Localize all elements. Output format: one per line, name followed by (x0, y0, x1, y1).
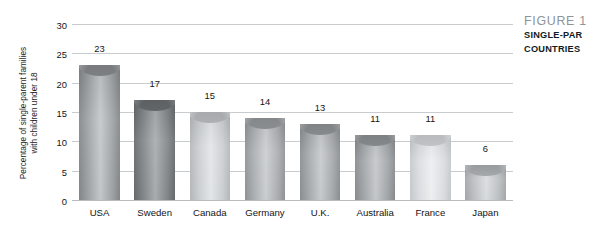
bar-slot: 23USA (79, 24, 120, 200)
bar-value-label: 17 (134, 78, 175, 89)
bar-slot: 11France (410, 24, 451, 200)
bar-body (79, 65, 120, 200)
bar-slot: 13U.K. (300, 24, 341, 200)
bar-usa[interactable] (79, 65, 120, 200)
bar-body (245, 118, 286, 200)
bar-slot: 14Germany (245, 24, 286, 200)
bar-u-k-[interactable] (300, 124, 341, 200)
bar-slot: 17Sweden (134, 24, 175, 200)
bar-slot: 11Australia (355, 24, 396, 200)
bar-body (300, 124, 341, 200)
bar-series: 23USA17Sweden15Canada14Germany13U.K.11Au… (72, 24, 513, 200)
bar-canada[interactable] (190, 112, 231, 200)
bar-value-label: 11 (410, 113, 451, 124)
y-axis-title-line-2: with children under 18 (29, 47, 40, 179)
figure-caption: FIGURE 1 SINGLE-PAR COUNTRIES (524, 14, 596, 56)
figure-container: Percentage of single-parent families wit… (0, 0, 596, 234)
y-tick-label-20: 20 (57, 78, 67, 89)
bar-value-label: 15 (190, 90, 231, 101)
y-axis-title: Percentage of single-parent families wit… (18, 24, 40, 202)
bar-value-label: 11 (355, 113, 396, 124)
bar-france[interactable] (410, 135, 451, 200)
y-tick-label-0: 0 (62, 196, 67, 207)
y-tick-label-10: 10 (57, 137, 67, 148)
y-tick-label-5: 5 (62, 166, 67, 177)
bar-value-label: 14 (245, 96, 286, 107)
caption-line-1: SINGLE-PAR (524, 29, 596, 43)
bar-sweden[interactable] (134, 100, 175, 200)
caption-line-2: COUNTRIES (524, 43, 596, 57)
caption-figure-number: FIGURE 1 (524, 14, 596, 29)
y-tick-label-25: 25 (57, 49, 67, 60)
plot-area: 051015202530 23USA17Sweden15Canada14Germ… (72, 24, 513, 200)
y-axis-title-line-1: Percentage of single-parent families (19, 47, 30, 179)
x-tick-label-japan: Japan (451, 207, 520, 218)
bar-value-label: 23 (79, 43, 120, 54)
bar-japan[interactable] (465, 165, 506, 200)
y-tick-label-15: 15 (57, 108, 67, 119)
bar-slot: 6Japan (465, 24, 506, 200)
y-tick-label-30: 30 (57, 20, 67, 31)
bar-australia[interactable] (355, 135, 396, 200)
bar-slot: 15Canada (190, 24, 231, 200)
bar-body (134, 100, 175, 200)
bar-germany[interactable] (245, 118, 286, 200)
bar-value-label: 6 (465, 143, 506, 154)
gridline-0: 0 (72, 200, 513, 201)
bar-value-label: 13 (300, 102, 341, 113)
bar-body (190, 112, 231, 200)
